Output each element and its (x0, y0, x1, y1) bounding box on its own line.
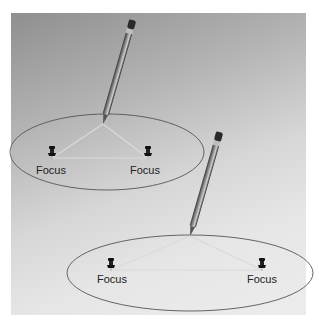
pencil-icon (187, 131, 224, 237)
pushpin-icon (48, 146, 56, 159)
pushpin-icon (144, 146, 152, 159)
ellipse-1 (10, 114, 204, 190)
focus-label: Focus (130, 164, 160, 176)
focus-label: Focus (247, 273, 277, 285)
focus-label: Focus (97, 273, 127, 285)
ellipse-diagram: Focus Focus Focus Focus (0, 0, 319, 328)
pencil-icon (100, 19, 137, 125)
narrow-ellipse-group: Focus Focus (10, 19, 204, 190)
string-1 (52, 124, 148, 158)
string-2 (111, 236, 262, 270)
focus-label: Focus (36, 164, 66, 176)
